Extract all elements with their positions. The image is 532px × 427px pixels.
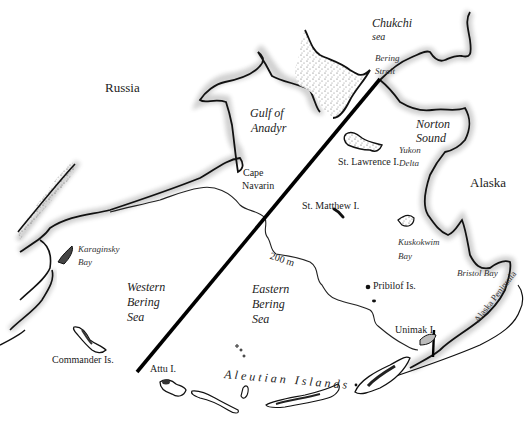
label-st-lawrence-island: St. Lawrence I. bbox=[338, 156, 399, 169]
label-eastern-bering-sea-2: Bering bbox=[252, 297, 285, 312]
russia-coast bbox=[0, 30, 370, 345]
label-karaginsky-bay-1: Karaginsky bbox=[78, 244, 120, 255]
label-chukchi-sea-1: Chukchi bbox=[372, 16, 412, 31]
label-eastern-bering-sea-1: Eastern bbox=[252, 282, 289, 297]
label-bering-strait-1: Bering bbox=[375, 53, 400, 64]
label-cape-navarin-1: Cape bbox=[243, 167, 264, 180]
label-western-bering-sea-3: Sea bbox=[127, 310, 144, 325]
label-commander-islands: Commander Is. bbox=[52, 354, 114, 367]
label-gulf-of-anadyr-2: Anadyr bbox=[251, 121, 286, 136]
label-unimak-island: Unimak I. bbox=[395, 324, 436, 337]
label-russia: Russia bbox=[105, 80, 140, 96]
bering-sea-map: Russia Alaska Chukchi sea Bering Strait … bbox=[0, 0, 532, 427]
label-attu-island: Attu I. bbox=[150, 363, 176, 376]
label-norton-sound-1: Norton bbox=[416, 117, 450, 132]
label-eastern-bering-sea-3: Sea bbox=[252, 312, 269, 327]
label-alaska: Alaska bbox=[470, 175, 506, 191]
label-cape-navarin-2: Navarin bbox=[242, 180, 274, 193]
label-kuskokwim-bay-2: Bay bbox=[398, 251, 412, 262]
label-norton-sound-2: Sound bbox=[416, 131, 446, 146]
label-yukon-delta-2: Delta bbox=[399, 158, 419, 169]
label-western-bering-sea-2: Bering bbox=[127, 295, 160, 310]
label-kuskokwim-bay-1: Kuskokwim bbox=[398, 237, 440, 248]
label-gulf-of-anadyr-1: Gulf of bbox=[250, 106, 284, 121]
label-bristol-bay: Bristol Bay bbox=[457, 268, 498, 279]
label-yukon-delta-1: Yukon bbox=[399, 145, 421, 156]
label-st-matthew-island: St. Matthew I. bbox=[302, 200, 359, 213]
label-bering-strait-2: Strait bbox=[375, 66, 395, 77]
label-western-bering-sea-1: Western bbox=[127, 280, 165, 295]
label-karaginsky-bay-2: Bay bbox=[78, 257, 92, 268]
label-pribilof-islands: Pribilof Is. bbox=[373, 280, 416, 293]
label-chukchi-sea-2: sea bbox=[372, 31, 385, 44]
